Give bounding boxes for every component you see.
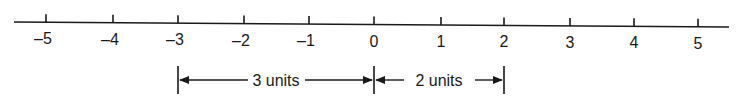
tick-label: 2	[500, 33, 509, 50]
tick-label: –1	[297, 32, 315, 49]
tick-label: –2	[232, 32, 250, 49]
tick-label: 4	[630, 34, 639, 51]
tick-label: –5	[34, 30, 52, 47]
tick-label: 1	[437, 33, 446, 50]
interval-label-2-units: 2 units	[415, 72, 462, 89]
number-line-axis	[14, 22, 729, 27]
tick-label: 5	[694, 35, 703, 52]
tick-label-group: –5–4–3–2–1012345	[34, 30, 702, 52]
tick-label: 0	[370, 33, 379, 50]
tick-label: –4	[101, 31, 119, 48]
interval-3-units: 3 units	[178, 66, 372, 94]
number-line-diagram: –5–4–3–2–1012345 3 units 2 units	[0, 0, 740, 100]
interval-2-units: 2 units	[376, 66, 504, 94]
tick-label: –3	[166, 31, 184, 48]
interval-label-3-units: 3 units	[252, 72, 299, 89]
tick-label: 3	[566, 34, 575, 51]
